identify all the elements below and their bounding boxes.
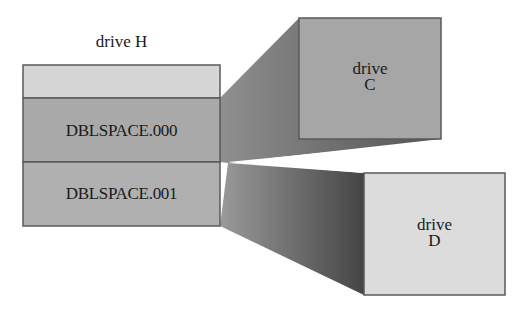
dblspace-001-label: DBLSPACE.001 (23, 185, 220, 202)
drive-c-letter: C (299, 77, 441, 93)
drive-d-label: drive D (364, 217, 505, 249)
projection-to-drive-d (220, 163, 364, 295)
drive-d-letter: D (364, 233, 505, 249)
drive-h-free-space (23, 65, 220, 98)
drive-h-title: drive H (23, 33, 220, 50)
dblspace-000-label: DBLSPACE.000 (23, 122, 220, 139)
drive-c-label: drive C (299, 61, 441, 93)
